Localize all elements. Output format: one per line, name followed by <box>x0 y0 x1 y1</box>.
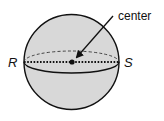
point-r-label: R <box>8 55 17 70</box>
sphere-diagram: center R S <box>0 0 164 121</box>
center-label: center <box>118 9 151 23</box>
point-s-label: S <box>124 55 133 70</box>
center-point <box>69 59 74 64</box>
